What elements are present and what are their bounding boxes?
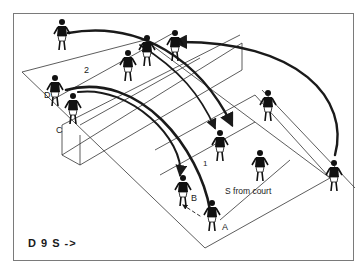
label-c: C (56, 125, 63, 135)
net-outline (62, 43, 242, 165)
player (252, 150, 268, 181)
player (54, 19, 70, 50)
trajectories (66, 31, 338, 216)
movement-path-dashed (183, 205, 200, 216)
trajectory-arc-2 (78, 91, 180, 175)
court (22, 32, 355, 248)
trajectory-arc-1 (66, 87, 210, 210)
label-b: B (191, 193, 197, 203)
player-b (175, 175, 191, 206)
path-number-2: 2 (84, 65, 89, 75)
label-a: A (222, 222, 228, 232)
annotation-serve-from-court: S from court (225, 186, 272, 196)
volleyball-drill-diagram: D C B A 1 2 S from court (0, 0, 362, 269)
player (260, 90, 276, 121)
diagram-caption: D 9 S -> (28, 237, 77, 249)
player (212, 130, 228, 161)
player-server (326, 160, 342, 191)
label-d: D (44, 90, 51, 100)
court-line (155, 95, 330, 178)
player-a (204, 200, 220, 231)
path-number-1: 1 (203, 159, 208, 168)
